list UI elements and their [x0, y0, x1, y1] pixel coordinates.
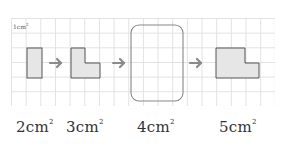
arrow-right-icon — [113, 59, 124, 67]
area-label-2: 3cm2 — [66, 118, 104, 136]
area-label-1: 2cm2 — [16, 118, 54, 136]
blank-answer-box — [131, 25, 183, 101]
arrow-right-icon — [190, 59, 201, 67]
shape-3cm2 — [71, 48, 100, 78]
shape-2cm2 — [27, 48, 42, 78]
area-label-4: 5cm2 — [219, 118, 257, 136]
shape-5cm2 — [216, 48, 259, 78]
arrow-right-icon — [50, 59, 61, 67]
area-label-3: 4cm2 — [137, 118, 175, 136]
